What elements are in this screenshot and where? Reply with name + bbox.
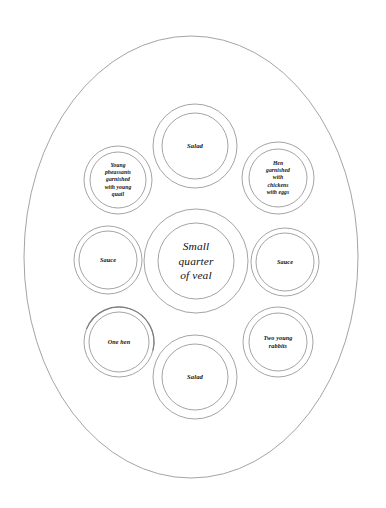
dish-one-hen-inner-ring xyxy=(89,312,149,372)
dish-small-quarter-of-veal[interactable] xyxy=(144,209,248,313)
dish-salad-top-inner-ring xyxy=(162,113,228,179)
dish-two-young-rabbits-inner-ring xyxy=(249,313,307,371)
diagram-canvas: SaladYoung pheassants garnished with you… xyxy=(0,0,386,508)
dish-two-young-rabbits[interactable] xyxy=(243,307,313,377)
dish-small-quarter-of-veal-inner-ring xyxy=(158,223,234,299)
dish-sauce-right-inner-ring xyxy=(256,233,314,291)
dish-hen-with-chickens[interactable] xyxy=(242,142,314,214)
dish-shape-group xyxy=(74,104,319,419)
dish-young-pheasants[interactable] xyxy=(84,146,152,214)
table-plan-svg xyxy=(0,0,386,508)
dish-sauce-left-inner-ring xyxy=(79,231,137,289)
dish-sauce-right[interactable] xyxy=(251,228,319,296)
dish-young-pheasants-inner-ring xyxy=(90,152,146,208)
dish-one-hen[interactable] xyxy=(84,307,154,377)
dish-salad-top[interactable] xyxy=(153,104,237,188)
dish-hen-with-chickens-inner-ring xyxy=(249,149,307,207)
dish-salad-bottom[interactable] xyxy=(153,335,237,419)
dish-sauce-left[interactable] xyxy=(74,226,142,294)
dish-salad-bottom-inner-ring xyxy=(162,344,228,410)
